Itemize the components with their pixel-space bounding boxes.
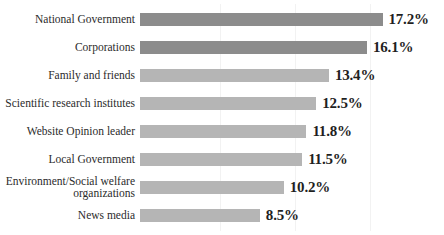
category-label: News media — [0, 209, 140, 222]
bar — [140, 69, 329, 82]
bar — [140, 209, 260, 222]
category-label: Family and friends — [0, 69, 140, 82]
bar-value-label: 16.1% — [373, 39, 413, 56]
bar — [140, 97, 316, 110]
bar-container: 11.5% — [140, 145, 444, 173]
category-label: Scientific research institutes — [0, 97, 140, 110]
bar — [140, 13, 383, 26]
bar-value-label: 13.4% — [335, 67, 375, 84]
bar-container: 11.8% — [140, 117, 444, 145]
bar-row: Local Government11.5% — [0, 145, 444, 173]
bar-row: Corporations16.1% — [0, 33, 444, 61]
bar-container: 17.2% — [140, 5, 444, 33]
bar-value-label: 10.2% — [290, 179, 330, 196]
bar-value-label: 11.5% — [308, 151, 347, 168]
category-label: Environment/Social welfare organizations — [0, 175, 140, 200]
bar-value-label: 17.2% — [389, 11, 429, 28]
category-label: National Government — [0, 13, 140, 26]
bar — [140, 181, 284, 194]
bar-row: National Government17.2% — [0, 5, 444, 33]
bar-container: 10.2% — [140, 173, 444, 201]
bar-container: 8.5% — [140, 201, 444, 229]
bar-rows: National Government17.2%Corporations16.1… — [0, 0, 444, 235]
bar — [140, 125, 306, 138]
bar-chart: National Government17.2%Corporations16.1… — [0, 0, 444, 235]
bar — [140, 153, 302, 166]
bar — [140, 41, 367, 54]
bar-value-label: 12.5% — [322, 95, 362, 112]
category-label: Website Opinion leader — [0, 125, 140, 138]
bar-row: Scientific research institutes12.5% — [0, 89, 444, 117]
bar-container: 13.4% — [140, 61, 444, 89]
bar-row: Environment/Social welfare organizations… — [0, 173, 444, 201]
bar-row: News media8.5% — [0, 201, 444, 229]
bar-value-label: 8.5% — [266, 207, 299, 224]
category-label: Corporations — [0, 41, 140, 54]
bar-value-label: 11.8% — [312, 123, 351, 140]
bar-row: Family and friends13.4% — [0, 61, 444, 89]
bar-container: 16.1% — [140, 33, 444, 61]
bar-container: 12.5% — [140, 89, 444, 117]
bar-row: Website Opinion leader11.8% — [0, 117, 444, 145]
category-label: Local Government — [0, 153, 140, 166]
